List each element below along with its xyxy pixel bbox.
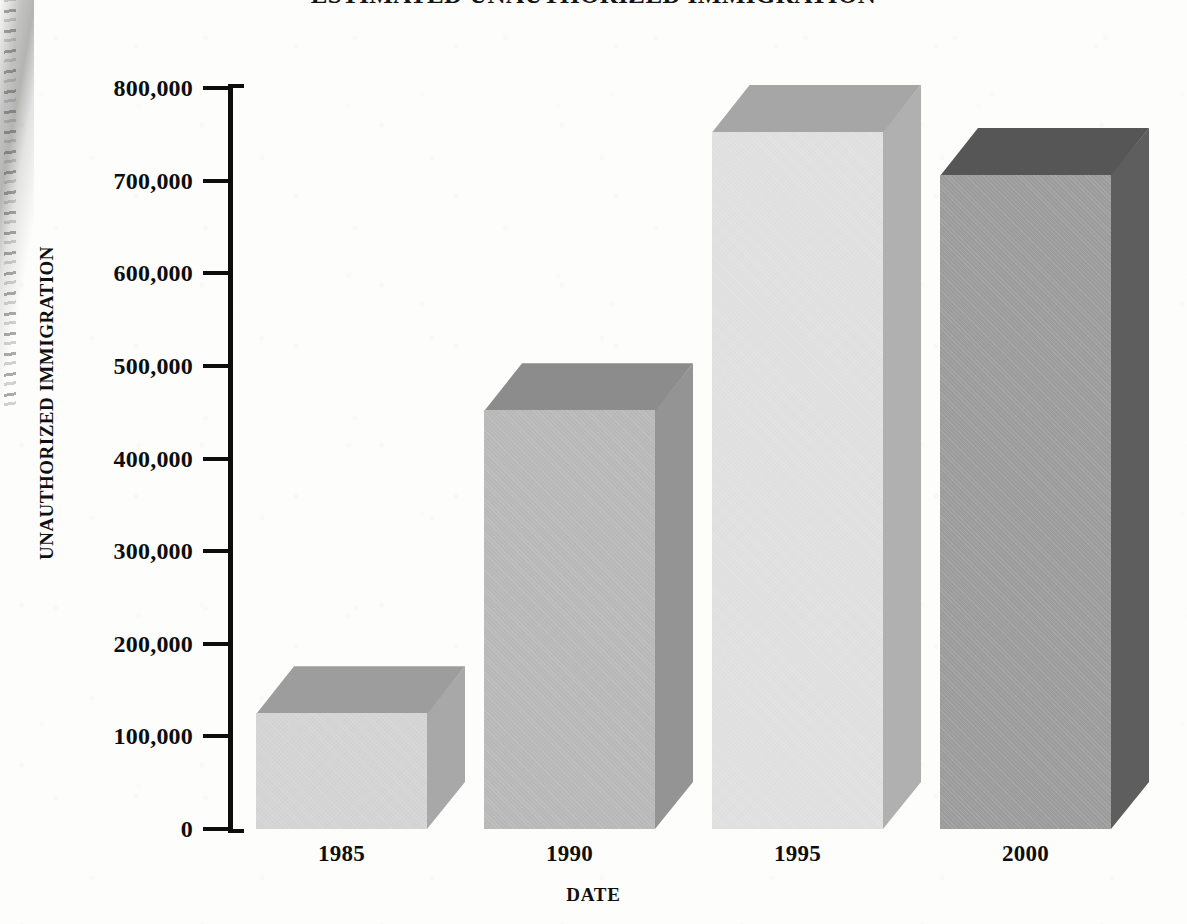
chart-page: ESTIMATED UNAUTHORIZED IMMIGRATION UNAUT…	[0, 0, 1187, 924]
x-axis-tick-label-2000: 2000	[926, 841, 1126, 867]
bar-paper-weave	[940, 175, 1111, 829]
bar-2000: 2000	[0, 0, 1187, 924]
plot-area: 1985199019952000	[0, 0, 1187, 924]
bar-front-face	[940, 175, 1111, 829]
bar-side-face	[1111, 128, 1149, 829]
